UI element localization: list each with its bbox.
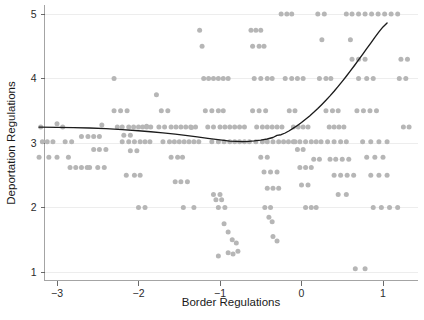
data-point bbox=[295, 147, 300, 152]
data-point bbox=[299, 182, 304, 187]
data-point bbox=[209, 139, 214, 144]
x-axis-title: Border Regulations bbox=[182, 296, 281, 308]
data-point bbox=[40, 139, 45, 144]
data-point bbox=[385, 173, 390, 178]
data-point bbox=[279, 124, 284, 129]
data-point bbox=[211, 124, 216, 129]
data-point bbox=[265, 76, 270, 81]
data-point bbox=[266, 215, 271, 220]
x-tick-label-0: 0 bbox=[299, 287, 305, 299]
data-point bbox=[284, 12, 289, 17]
data-point bbox=[314, 205, 319, 210]
data-point bbox=[68, 165, 73, 170]
data-point bbox=[265, 186, 270, 191]
data-point bbox=[213, 197, 218, 202]
data-point bbox=[138, 173, 143, 178]
data-point bbox=[66, 155, 71, 160]
data-point bbox=[216, 205, 221, 210]
data-point bbox=[165, 108, 170, 113]
data-point bbox=[376, 12, 381, 17]
data-point bbox=[85, 134, 90, 139]
data-point bbox=[218, 192, 223, 197]
data-point bbox=[180, 155, 185, 160]
data-point bbox=[87, 165, 92, 170]
data-point bbox=[340, 157, 345, 162]
data-point bbox=[144, 124, 149, 129]
data-point bbox=[336, 124, 341, 129]
data-point bbox=[281, 139, 286, 144]
data-point bbox=[169, 155, 174, 160]
data-point bbox=[211, 192, 216, 197]
data-point bbox=[112, 108, 117, 113]
data-point bbox=[173, 124, 178, 129]
data-point bbox=[132, 173, 137, 178]
data-point bbox=[367, 108, 372, 113]
data-point bbox=[216, 253, 221, 258]
data-point bbox=[112, 76, 117, 81]
data-point bbox=[268, 205, 273, 210]
data-point bbox=[303, 139, 308, 144]
data-point bbox=[301, 147, 306, 152]
data-point bbox=[270, 124, 275, 129]
data-point bbox=[287, 108, 292, 113]
x-tick-label--2: −2 bbox=[133, 287, 145, 299]
data-point bbox=[189, 125, 194, 130]
data-point bbox=[297, 165, 302, 170]
data-point bbox=[73, 165, 78, 170]
data-point bbox=[382, 12, 387, 17]
data-point bbox=[317, 157, 322, 162]
data-point bbox=[356, 12, 361, 17]
x-tick-label--3: −3 bbox=[51, 287, 63, 299]
data-point bbox=[344, 12, 349, 17]
data-point bbox=[118, 108, 123, 113]
data-point bbox=[306, 182, 311, 187]
data-point bbox=[258, 76, 263, 81]
data-point bbox=[222, 221, 227, 226]
data-point bbox=[95, 165, 100, 170]
data-point bbox=[338, 139, 343, 144]
data-point bbox=[185, 179, 190, 184]
data-point bbox=[136, 205, 141, 210]
y-tick-label-1: 1 bbox=[31, 266, 37, 278]
data-point bbox=[379, 205, 384, 210]
data-point bbox=[128, 148, 133, 153]
data-point bbox=[175, 155, 180, 160]
data-point bbox=[45, 139, 50, 144]
data-point bbox=[177, 139, 182, 144]
data-point bbox=[309, 165, 314, 170]
data-point bbox=[401, 124, 406, 129]
data-point bbox=[203, 108, 208, 113]
data-point bbox=[322, 12, 327, 17]
data-point bbox=[283, 76, 288, 81]
data-point bbox=[231, 251, 236, 256]
data-point bbox=[350, 12, 355, 17]
data-point bbox=[325, 139, 330, 144]
data-point bbox=[257, 44, 262, 49]
data-point bbox=[222, 124, 227, 129]
y-tick-labels-group: 12345 bbox=[31, 8, 37, 278]
data-point bbox=[216, 108, 221, 113]
data-point bbox=[120, 139, 125, 144]
y-tick-label-4: 4 bbox=[31, 72, 37, 84]
data-point bbox=[268, 170, 273, 175]
data-point bbox=[397, 76, 402, 81]
data-point bbox=[260, 124, 265, 129]
data-point bbox=[173, 179, 178, 184]
data-point bbox=[262, 170, 267, 175]
data-point bbox=[226, 76, 231, 81]
data-point bbox=[350, 57, 355, 62]
data-point bbox=[55, 155, 60, 160]
data-point bbox=[262, 44, 267, 49]
data-point bbox=[154, 92, 159, 97]
data-point bbox=[368, 173, 373, 178]
data-point bbox=[50, 139, 55, 144]
data-point bbox=[201, 76, 206, 81]
data-point bbox=[306, 124, 311, 129]
data-point bbox=[209, 108, 214, 113]
data-point bbox=[206, 76, 211, 81]
data-point bbox=[286, 139, 291, 144]
data-point bbox=[160, 139, 165, 144]
data-point bbox=[364, 155, 369, 160]
data-point bbox=[309, 205, 314, 210]
data-point bbox=[344, 139, 349, 144]
